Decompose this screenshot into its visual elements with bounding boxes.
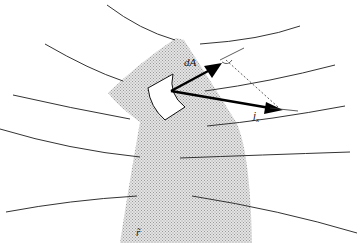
label-j-subscript: x [256,116,259,124]
label-j: jx [253,109,259,124]
diagram-canvas: dA jx r̃ [0,0,360,243]
diagram-svg [0,0,360,243]
shaded-region [108,38,252,243]
label-dA: dA [184,56,196,68]
label-region: r̃ [136,226,140,238]
